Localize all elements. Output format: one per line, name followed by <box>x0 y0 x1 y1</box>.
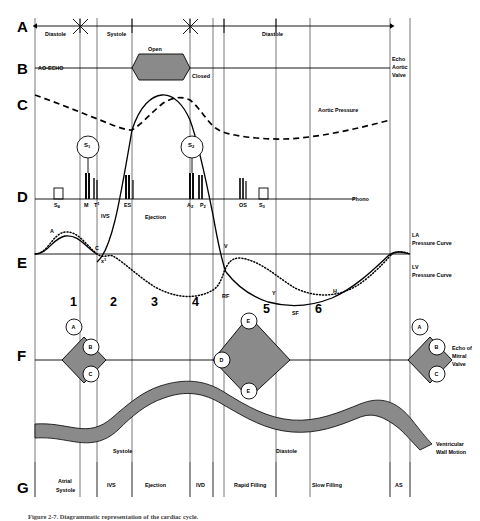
row-label-c: C <box>17 97 28 112</box>
row-b-aortic-valve <box>35 54 390 80</box>
heart-sound-callouts <box>77 136 203 173</box>
wave-y-label: Y <box>272 290 276 296</box>
wave-a-label: A <box>50 228 54 234</box>
lv-pressure-curve-l1: LV <box>412 264 419 270</box>
phase-number-4: 4 <box>192 296 199 309</box>
ventricular-wall-motion-band <box>35 381 432 450</box>
aortic-valve-open: Open <box>148 46 162 52</box>
mitral-point-a-left: A <box>72 324 76 330</box>
row-label-f: F <box>17 348 26 363</box>
mitral-point-c-right: C <box>435 371 439 377</box>
phono-marker-t1: T1 <box>94 202 100 208</box>
wiggers-diagram-figure: A B C D E F G Diastole Systole Diastole … <box>0 0 480 521</box>
la-pressure-curve-l2: Pressure Curve <box>412 240 452 246</box>
phono-s3-box <box>259 188 268 199</box>
row-label-d: D <box>17 189 28 204</box>
wave-v-label: V <box>224 243 228 249</box>
lv-pressure-systolic-curve <box>97 95 226 272</box>
phase-number-5: 5 <box>263 303 270 316</box>
phono-s2-spikes <box>190 173 202 199</box>
row-a-timing-axis <box>37 19 390 34</box>
diagram-canvas <box>0 0 480 521</box>
row-a-systole: Systole <box>107 31 126 37</box>
phono-label: Phono <box>352 196 369 202</box>
slow-filling-abbrev: SF <box>292 310 299 316</box>
lv-pressure-fill-curve <box>226 252 410 305</box>
ventricular-wall-motion-l2: Wall Motion <box>436 449 466 455</box>
aortic-pressure-curve <box>35 95 390 139</box>
ivs-label-upper: IVS <box>101 213 110 219</box>
phono-os-spikes <box>240 178 246 199</box>
row-label-e: E <box>17 255 27 270</box>
echo-mitral-valve-l3: Valve <box>452 361 466 367</box>
bottom-ticks <box>35 462 410 497</box>
phono-marker-s4: S4 <box>54 202 60 210</box>
row-g-wall-motion <box>35 381 432 450</box>
wall-motion-systole: Systole <box>113 448 132 454</box>
heart-sound-s1: S1 <box>84 142 90 149</box>
phono-marker-p2: P2 <box>200 202 206 210</box>
phono-marker-es: ES <box>124 202 131 208</box>
phase-number-3: 3 <box>151 296 158 309</box>
bottom-label-ivd: IVD <box>196 482 205 488</box>
wave-c-label: C <box>95 245 99 251</box>
rapid-filling-abbrev: RF <box>222 293 229 299</box>
mitral-point-c-left: C <box>89 371 93 377</box>
phase-number-1: 1 <box>70 296 77 309</box>
aortic-valve-open-shape <box>132 54 190 80</box>
row-a-diastole-1: Diastole <box>45 31 66 37</box>
lv-pressure-curve-l2: Pressure Curve <box>412 272 452 278</box>
la-pressure-curve <box>35 232 410 297</box>
mitral-point-d: D <box>220 357 224 363</box>
row-label-a: A <box>17 19 28 34</box>
bottom-label-slow-filling: Slow Filling <box>312 482 342 488</box>
phono-marker-s3: S3 <box>259 202 265 210</box>
bottom-label-atrial-systole-l2: Systole <box>56 487 75 493</box>
mitral-point-b-left: B <box>89 344 93 350</box>
aortic-pressure-label: Aortic Pressure <box>318 107 358 113</box>
phono-marker-m: M <box>84 202 89 208</box>
figure-caption: Figure 2-7. Diagrammatic representation … <box>28 513 198 520</box>
phase-number-6: 6 <box>315 303 322 316</box>
phono-marker-a2: A2 <box>187 202 193 210</box>
echo-mitral-valve-l1: Echo of <box>452 345 472 351</box>
echo-aortic-valve-l3: Valve <box>392 72 406 78</box>
row-d-phonocardiogram <box>35 136 355 199</box>
bottom-label-as: AS <box>395 482 403 488</box>
mitral-point-a-right: A <box>418 324 422 330</box>
bottom-label-rapid-filling: Rapid Filling <box>234 482 266 488</box>
wave-h-label: H <box>333 288 337 294</box>
mitral-point-b-right: B <box>435 344 439 350</box>
row-f-mitral-valve <box>35 313 452 399</box>
wave-x1-label: x1 <box>101 258 106 264</box>
phono-s4-box <box>54 188 63 199</box>
heart-sound-s2: S2 <box>188 142 194 149</box>
ao-echo-label: AO-ECHO <box>38 65 63 71</box>
ventricular-wall-motion-l1: Ventricular <box>436 441 464 447</box>
echo-aortic-valve-l1: Echo <box>392 56 405 62</box>
wall-motion-diastole: Diastole <box>276 448 297 454</box>
phase-number-2: 2 <box>110 296 117 309</box>
row-label-g: G <box>17 480 29 495</box>
mitral-point-e-bottom: E <box>247 388 251 394</box>
la-pressure-curve-l1: LA <box>412 232 419 238</box>
mitral-point-e-top: E <box>247 318 251 324</box>
vertical-gridlines <box>35 18 410 497</box>
echo-aortic-valve-l2: Aortic <box>392 64 408 70</box>
ejection-label-upper: Ejection <box>145 214 166 220</box>
phono-marker-os: OS <box>239 202 247 208</box>
row-a-diastole-2: Diastole <box>262 31 283 37</box>
row-label-b: B <box>17 61 28 76</box>
bottom-label-ejection: Ejection <box>145 482 166 488</box>
echo-mitral-valve-l2: Mitral <box>452 353 466 359</box>
bottom-label-ivs: IVS <box>107 482 116 488</box>
phono-s1-spikes <box>86 173 97 199</box>
bottom-label-atrial-systole-l1: Atrial <box>58 478 72 484</box>
aortic-valve-closed: Closed <box>192 73 210 79</box>
